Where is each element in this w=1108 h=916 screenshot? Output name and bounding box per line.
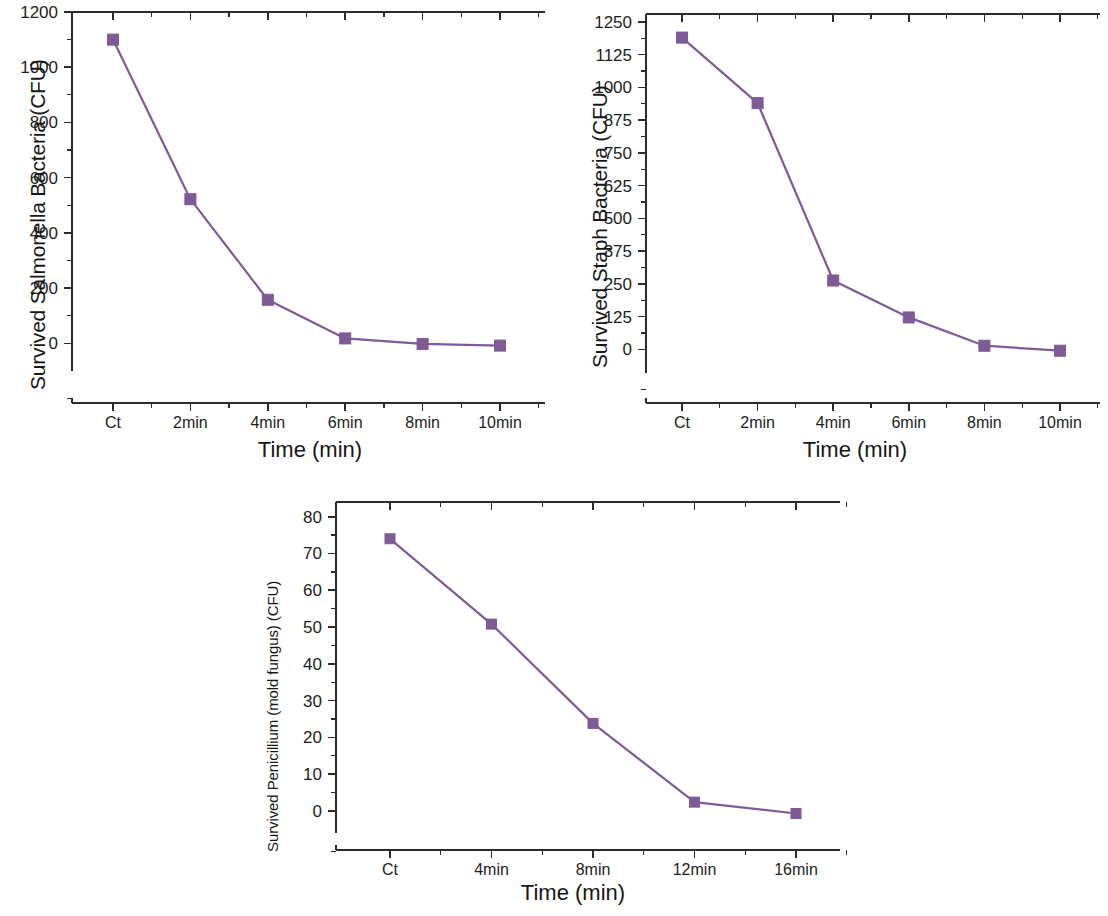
- penicillium-data-point: [690, 797, 700, 807]
- penicillium-ytick-label: 70: [303, 544, 322, 563]
- penicillium-data-point: [588, 718, 598, 728]
- penicillium-ytick-label: 50: [303, 618, 322, 637]
- chart-svg-penicillium: 01020304050607080Ct4min8min12min16min: [248, 484, 868, 884]
- y-axis-label-penicillium: Survived Penicillium (mold fungus) (CFU): [264, 581, 281, 852]
- salmonella-xtick-label: Ct: [105, 414, 122, 431]
- staph-data-point: [828, 275, 839, 286]
- penicillium-ytick-label: 40: [303, 655, 322, 674]
- staph-data-point: [1055, 345, 1066, 356]
- salmonella-data-point: [417, 338, 428, 349]
- staph-ytick-label: 1125: [595, 46, 632, 65]
- staph-xtick-label: 2min: [740, 414, 775, 431]
- chart-panel-staph: Survived Staph Bacteria (CFU) 0125250375…: [560, 0, 1108, 470]
- salmonella-data-point: [108, 34, 119, 45]
- chart-svg-staph: 0125250375500625750875100011251250Ct2min…: [560, 0, 1108, 440]
- salmonella-data-point: [495, 340, 506, 351]
- salmonella-series-line: [113, 40, 500, 346]
- salmonella-data-point: [185, 194, 196, 205]
- staph-xtick-label: 4min: [816, 414, 851, 431]
- salmonella-xtick-label: 8min: [405, 414, 440, 431]
- x-axis-label-salmonella: Time (min): [145, 437, 475, 463]
- penicillium-ytick-label: 0: [313, 802, 322, 821]
- salmonella-xtick-label: 4min: [250, 414, 285, 431]
- staph-ytick-label: 1250: [594, 13, 632, 32]
- staph-data-point: [979, 340, 990, 351]
- penicillium-xtick-label: Ct: [382, 861, 399, 878]
- penicillium-xtick-label: 4min: [474, 861, 509, 878]
- penicillium-data-point: [487, 619, 497, 629]
- penicillium-series-line: [390, 539, 796, 814]
- staph-xtick-label: 10min: [1038, 414, 1082, 431]
- penicillium-data-point: [385, 534, 395, 544]
- penicillium-ytick-label: 20: [303, 728, 322, 747]
- penicillium-ytick-label: 80: [303, 508, 322, 527]
- staph-data-point: [677, 32, 688, 43]
- staph-xtick-label: 8min: [967, 414, 1002, 431]
- salmonella-data-point: [340, 333, 351, 344]
- salmonella-data-point: [262, 294, 273, 305]
- chart-panel-penicillium: Survived Penicillium (mold fungus) (CFU)…: [248, 484, 868, 916]
- y-axis-label-staph: Survived Staph Bacteria (CFU): [588, 86, 612, 368]
- chart-svg-salmonella: 020040060080010001200Ct2min4min6min8min1…: [0, 0, 560, 440]
- salmonella-xtick-label: 6min: [328, 414, 363, 431]
- staph-xtick-label: Ct: [674, 414, 691, 431]
- salmonella-xtick-label: 2min: [173, 414, 208, 431]
- penicillium-xtick-label: 8min: [576, 861, 611, 878]
- staph-series-line: [682, 38, 1060, 351]
- staph-data-point: [752, 98, 763, 109]
- staph-xtick-label: 6min: [891, 414, 926, 431]
- penicillium-xtick-label: 12min: [673, 861, 717, 878]
- salmonella-xtick-label: 10min: [478, 414, 522, 431]
- penicillium-ytick-label: 60: [303, 581, 322, 600]
- staph-ytick-label: 0: [623, 340, 632, 359]
- x-axis-label-staph: Time (min): [690, 437, 1020, 463]
- penicillium-ytick-label: 30: [303, 692, 322, 711]
- staph-data-point: [903, 312, 914, 323]
- y-axis-label-salmonella: Survived Salmonella Bacteria (CFU): [26, 60, 50, 390]
- salmonella-ytick-label: 1200: [20, 3, 58, 22]
- x-axis-label-penicillium: Time (min): [408, 880, 738, 906]
- penicillium-data-point: [791, 809, 801, 819]
- penicillium-ytick-label: 10: [303, 765, 322, 784]
- chart-panel-salmonella: Survived Salmonella Bacteria (CFU) 02004…: [0, 0, 560, 470]
- penicillium-xtick-label: 16min: [774, 861, 818, 878]
